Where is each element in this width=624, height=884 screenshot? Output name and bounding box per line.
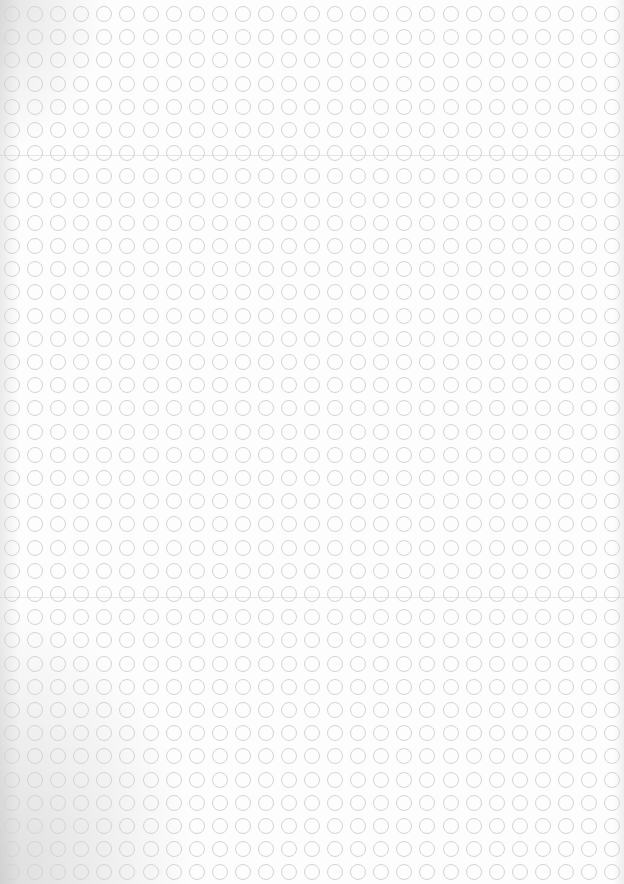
- grid-circle: [119, 215, 135, 231]
- grid-circle: [604, 354, 620, 370]
- grid-circle: [489, 168, 505, 184]
- grid-circle: [512, 238, 528, 254]
- grid-circle: [558, 632, 574, 648]
- grid-circle: [212, 400, 228, 416]
- grid-circle: [535, 516, 551, 532]
- grid-circle: [143, 192, 159, 208]
- grid-circle: [50, 609, 66, 625]
- grid-circle: [535, 748, 551, 764]
- grid-circle: [350, 586, 366, 602]
- grid-circle: [4, 424, 20, 440]
- grid-circle: [558, 563, 574, 579]
- grid-circle: [27, 308, 43, 324]
- grid-circle: [558, 725, 574, 741]
- grid-circle: [558, 702, 574, 718]
- grid-circle: [281, 29, 297, 45]
- grid-circle: [558, 795, 574, 811]
- grid-circle: [489, 725, 505, 741]
- grid-circle: [512, 772, 528, 788]
- grid-circle: [166, 52, 182, 68]
- grid-circle: [304, 168, 320, 184]
- grid-circle: [304, 215, 320, 231]
- grid-circle: [27, 52, 43, 68]
- grid-circle: [73, 52, 89, 68]
- grid-circle: [119, 818, 135, 834]
- grid-circle: [258, 841, 274, 857]
- grid-circle: [281, 308, 297, 324]
- grid-circle: [489, 563, 505, 579]
- grid-circle: [604, 168, 620, 184]
- grid-circle: [350, 424, 366, 440]
- grid-circle: [466, 586, 482, 602]
- grid-circle: [350, 192, 366, 208]
- grid-circle: [304, 516, 320, 532]
- grid-circle: [581, 6, 597, 22]
- grid-circle: [235, 29, 251, 45]
- grid-circle: [281, 841, 297, 857]
- grid-circle: [581, 447, 597, 463]
- grid-circle: [419, 76, 435, 92]
- grid-circle: [304, 493, 320, 509]
- grid-circle: [581, 76, 597, 92]
- grid-circle: [327, 586, 343, 602]
- grid-circle: [189, 516, 205, 532]
- grid-circle: [327, 516, 343, 532]
- grid-circle: [535, 493, 551, 509]
- grid-circle: [489, 424, 505, 440]
- grid-circle: [27, 99, 43, 115]
- grid-circle: [443, 192, 459, 208]
- grid-circle: [281, 192, 297, 208]
- grid-circle: [489, 772, 505, 788]
- grid-circle: [327, 29, 343, 45]
- grid-circle: [466, 215, 482, 231]
- grid-circle: [443, 377, 459, 393]
- grid-circle: [466, 400, 482, 416]
- grid-circle: [350, 168, 366, 184]
- grid-circle: [212, 168, 228, 184]
- grid-circle: [512, 6, 528, 22]
- grid-circle: [235, 609, 251, 625]
- grid-circle: [466, 29, 482, 45]
- grid-circle: [327, 331, 343, 347]
- grid-circle: [489, 6, 505, 22]
- grid-circle: [581, 679, 597, 695]
- grid-circle: [489, 632, 505, 648]
- grid-circle: [73, 192, 89, 208]
- grid-circle: [258, 215, 274, 231]
- grid-circle: [327, 76, 343, 92]
- grid-circle: [50, 400, 66, 416]
- grid-circle: [327, 725, 343, 741]
- grid-circle: [419, 29, 435, 45]
- grid-circle: [189, 656, 205, 672]
- grid-circle: [166, 6, 182, 22]
- grid-circle: [604, 29, 620, 45]
- grid-circle: [604, 215, 620, 231]
- grid-circle: [489, 540, 505, 556]
- grid-circle: [304, 656, 320, 672]
- grid-circle: [512, 586, 528, 602]
- grid-circle: [4, 308, 20, 324]
- grid-circle: [235, 493, 251, 509]
- grid-circle: [27, 632, 43, 648]
- grid-circle: [166, 841, 182, 857]
- grid-circle: [4, 400, 20, 416]
- grid-circle: [304, 424, 320, 440]
- grid-circle: [143, 261, 159, 277]
- grid-circle: [350, 6, 366, 22]
- grid-circle: [212, 563, 228, 579]
- grid-circle: [512, 795, 528, 811]
- grid-circle: [443, 864, 459, 880]
- grid-circle: [73, 656, 89, 672]
- grid-circle: [166, 308, 182, 324]
- grid-circle: [281, 725, 297, 741]
- grid-circle: [327, 192, 343, 208]
- grid-circle: [396, 586, 412, 602]
- grid-circle: [466, 679, 482, 695]
- grid-circle: [466, 52, 482, 68]
- grid-circle: [304, 29, 320, 45]
- grid-circle: [50, 702, 66, 718]
- grid-circle: [119, 192, 135, 208]
- grid-circle: [512, 29, 528, 45]
- grid-circle: [304, 841, 320, 857]
- grid-circle: [373, 447, 389, 463]
